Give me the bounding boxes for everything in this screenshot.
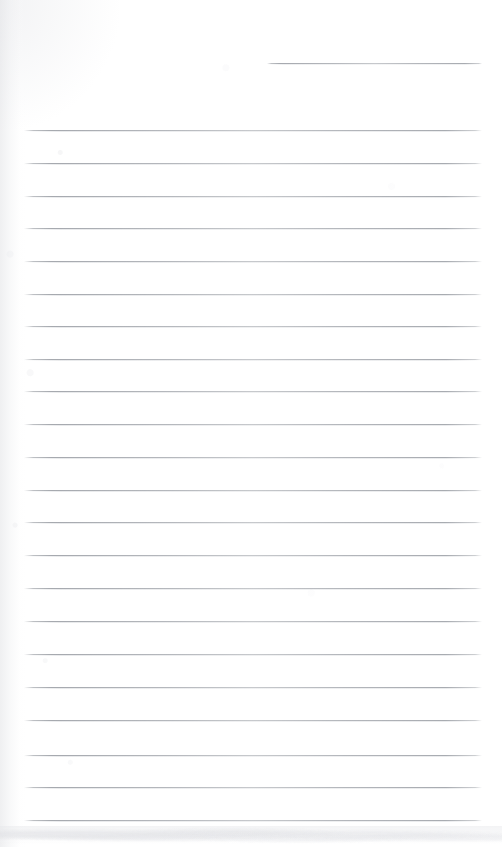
scanned-page — [0, 0, 502, 847]
paper-background — [0, 0, 502, 847]
